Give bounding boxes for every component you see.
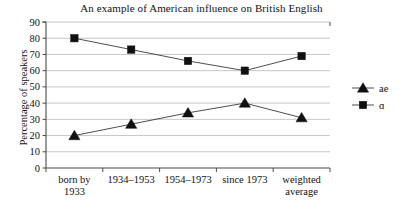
x-axis-labels: born by19331934–19531954–1973since 1973w… <box>58 174 321 197</box>
x-tick-label: average <box>285 186 318 197</box>
data-point-marker-triangle <box>239 98 250 107</box>
plot-area: 0102030405060708090 born by19331934–1953… <box>0 0 403 217</box>
chart-container: An example of American influence on Brit… <box>0 0 403 217</box>
x-tick-label: 1933 <box>64 186 85 197</box>
legend-label-ɑ: ɑ <box>379 100 385 111</box>
y-tick-label: 0 <box>35 163 40 174</box>
x-tick-label: 1954–1973 <box>164 174 211 185</box>
y-tick-label: 60 <box>30 65 41 76</box>
x-axis-ticks <box>46 168 330 172</box>
y-tick-label: 80 <box>30 33 41 44</box>
x-tick-label: 1934–1953 <box>108 174 155 185</box>
x-tick-label: born by <box>58 174 91 185</box>
y-tick-label: 20 <box>30 130 41 141</box>
data-point-marker-square <box>298 52 305 59</box>
data-point-marker-square <box>359 101 366 108</box>
legend-label-ae: ae <box>379 83 389 94</box>
data-point-marker-square <box>241 67 248 74</box>
y-tick-label: 30 <box>30 114 41 125</box>
y-tick-label: 70 <box>30 49 41 60</box>
data-point-marker-square <box>128 46 135 53</box>
chart-legend: aeɑ <box>352 83 389 111</box>
y-tick-label: 40 <box>30 98 41 109</box>
data-point-marker-square <box>71 35 78 42</box>
y-tick-label: 50 <box>30 81 41 92</box>
y-axis-ticks: 0102030405060708090 <box>30 17 47 174</box>
x-tick-label: since 1973 <box>222 174 267 185</box>
data-point-marker-triangle <box>357 83 368 92</box>
data-point-marker-square <box>184 57 191 64</box>
x-tick-label: weighted <box>282 174 321 185</box>
y-tick-label: 90 <box>30 17 41 28</box>
y-tick-label: 10 <box>30 146 41 157</box>
axis-lines <box>43 22 331 168</box>
